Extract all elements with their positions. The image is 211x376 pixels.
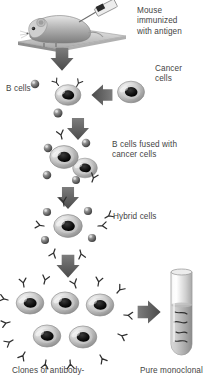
clone-cell-icon [69,326,97,348]
label-mouse-immunized: Mouse immunized with antigen [137,6,182,37]
sphere-icon [54,109,63,118]
label-clones-of-antibody: Clones of antibody- [12,366,84,376]
clone-cell-icon [33,325,61,347]
label-pure-monoclonal: Pure monoclonal [140,366,203,376]
label-b-cells-fused: B cells fused with cancer cells [112,140,177,161]
test-tube-icon [171,269,192,355]
label-b-cells: B cells [6,84,31,94]
cancer-cell-icon [118,81,145,103]
label-hybrid-cells: Hybrid cells [113,212,157,222]
clone-cell-icon [51,292,79,314]
clone-cell-icon [16,292,44,314]
sphere-icon [31,80,40,89]
clone-cell-icon [86,294,114,316]
label-cancer-cells: Cancer cells [155,64,182,85]
monoclonal-antibody-diagram [0,0,211,376]
